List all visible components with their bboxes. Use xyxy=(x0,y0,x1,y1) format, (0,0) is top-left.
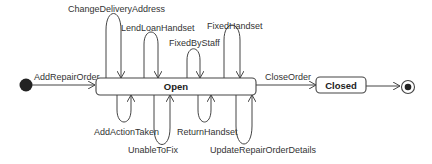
transition-label: FixedByStaff xyxy=(169,38,220,48)
transition-label: AddRepairOrder xyxy=(34,72,100,82)
transition-label: LendLoanHandset xyxy=(121,23,195,33)
self-loop-change-delivery-address: ChangeDeliveryAddress xyxy=(68,4,166,78)
transition-label: AddActionTaken xyxy=(94,127,159,137)
state-label: Open xyxy=(164,81,188,92)
transition-label: CloseOrder xyxy=(265,72,311,82)
self-loop-fixed-by-staff: FixedByStaff xyxy=(169,38,220,78)
transition-label: ReturnHandset xyxy=(177,127,238,137)
transition-label: ChangeDeliveryAddress xyxy=(68,4,166,14)
state-label: Closed xyxy=(325,80,357,91)
self-loop-update-repair-order-details: UpdateRepairOrderDetails xyxy=(210,95,317,155)
self-loop-fixed-handset: FixedHandset xyxy=(207,21,263,78)
self-loop-return-handset: ReturnHandset xyxy=(177,95,238,137)
transition-close-order: CloseOrder xyxy=(256,72,316,85)
transition-label: FixedHandset xyxy=(207,21,263,31)
transition-label: UnableToFix xyxy=(128,145,179,155)
self-loop-unable-to-fix: UnableToFix xyxy=(128,95,179,155)
state-diagram: AddRepairOrder ChangeDeliveryAddress Len… xyxy=(0,0,432,164)
final-state xyxy=(402,81,415,94)
self-loop-add-action-taken: AddActionTaken xyxy=(94,95,159,137)
state-closed: Closed xyxy=(316,77,366,93)
transition-add-repair-order: AddRepairOrder xyxy=(32,72,100,85)
transition-label: UpdateRepairOrderDetails xyxy=(210,145,317,155)
initial-state xyxy=(20,79,33,92)
self-loop-lend-loan-handset: LendLoanHandset xyxy=(121,23,195,78)
state-open: Open xyxy=(96,78,256,95)
